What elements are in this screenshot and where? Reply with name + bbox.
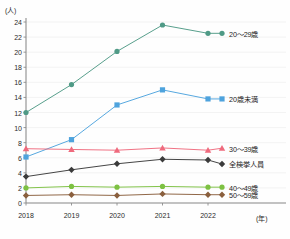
data-point <box>68 167 74 173</box>
data-point <box>68 192 74 198</box>
legend-marker <box>219 145 226 151</box>
data-point <box>23 192 29 198</box>
legend-item-label: 30〜39歳 <box>229 144 258 154</box>
data-point <box>160 22 165 27</box>
legend-item-label: 50〜59歳 <box>229 190 258 200</box>
data-point <box>114 161 120 167</box>
data-point <box>160 87 165 92</box>
data-point <box>159 156 165 162</box>
data-point <box>114 49 119 54</box>
series-3 <box>23 156 225 180</box>
legend-marker <box>219 96 224 101</box>
legend-item-label: 全検挙人員 <box>229 159 264 169</box>
series-line <box>26 90 208 157</box>
data-point <box>69 137 74 142</box>
legend-marker <box>219 192 225 198</box>
legend-item-label: 20歳未満 <box>229 94 258 104</box>
data-point <box>114 102 119 107</box>
series-2 <box>23 145 226 153</box>
data-point <box>69 184 74 189</box>
data-point <box>159 191 165 197</box>
series-5 <box>23 191 225 199</box>
data-point <box>160 184 165 189</box>
line-chart: (人) (年) 024681012141618202224 2018201920… <box>0 0 290 239</box>
data-point <box>23 110 28 115</box>
legend-marker <box>219 161 225 167</box>
data-point <box>69 82 74 87</box>
data-point <box>114 185 119 190</box>
series-4 <box>23 184 224 191</box>
data-point <box>114 192 120 198</box>
series-line <box>26 25 208 112</box>
data-point <box>23 173 29 179</box>
legend-marker <box>219 31 224 36</box>
data-point <box>23 185 28 190</box>
data-point <box>23 154 28 159</box>
legend-item-label: 20〜29歳 <box>229 29 258 39</box>
legend-marker <box>219 185 224 190</box>
series-0 <box>23 22 224 115</box>
